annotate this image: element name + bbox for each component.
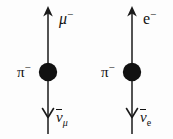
muon-diagram-lines xyxy=(0,0,87,139)
electron-diagram-lines xyxy=(86,0,173,139)
interaction-vertex xyxy=(123,63,141,81)
label-antineutrino-mu: νμ xyxy=(56,110,68,128)
diagram-electron-channel: e− π− νe xyxy=(86,0,173,139)
label-pion-incoming: π− xyxy=(17,62,31,80)
label-antineutrino-e: νe xyxy=(140,110,151,128)
feynman-diagram-figure: μ− π− νμ e− π− νe xyxy=(0,0,173,139)
label-muon: μ− xyxy=(59,9,73,27)
antineutrino-overbar: ν xyxy=(56,110,63,125)
interaction-vertex xyxy=(39,63,57,81)
label-electron: e− xyxy=(143,9,156,27)
antineutrino-overbar: ν xyxy=(140,110,147,125)
diagram-muon-channel: μ− π− νμ xyxy=(0,0,87,139)
label-pion-incoming: π− xyxy=(101,62,115,80)
